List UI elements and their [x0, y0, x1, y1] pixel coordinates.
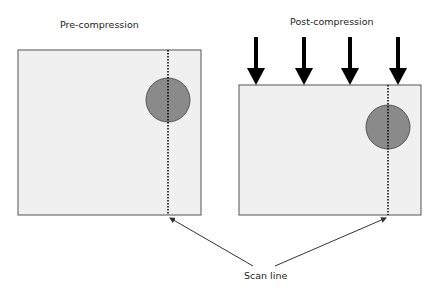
- down-arrow-icon: [247, 37, 265, 85]
- pre-compression-panel: [18, 50, 201, 215]
- down-arrow-icon: [295, 37, 313, 85]
- pre-lesion-circle: [146, 78, 190, 122]
- scan-pointer-left: [170, 218, 253, 266]
- down-arrow-icon: [389, 37, 407, 85]
- post-compression-panel: [239, 85, 421, 215]
- scan-pointer-right: [275, 218, 386, 266]
- compression-arrows: [247, 37, 407, 85]
- down-arrow-icon: [341, 37, 359, 85]
- compression-diagram: [0, 0, 440, 295]
